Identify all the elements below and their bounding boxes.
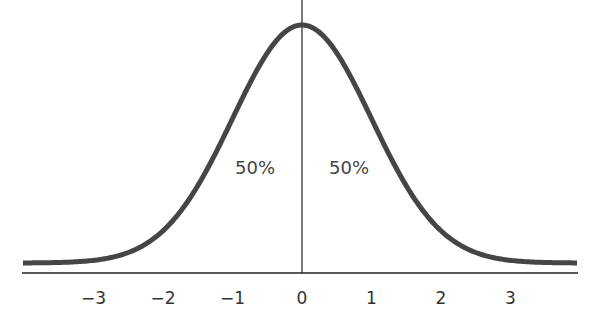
x-tick-label: 2	[436, 288, 447, 308]
normal-curve	[23, 25, 577, 263]
normal-distribution-chart: −3−2−10123 50% 50%	[0, 0, 604, 323]
right-percent-label: 50%	[329, 157, 369, 178]
x-tick-label: 1	[366, 288, 377, 308]
x-tick-label: −3	[81, 288, 106, 308]
x-tick-label: 0	[297, 288, 308, 308]
x-tick-label: −1	[220, 288, 245, 308]
x-tick-label: −2	[150, 288, 175, 308]
plot-area	[0, 0, 604, 323]
left-percent-label: 50%	[235, 157, 275, 178]
x-tick-label: 3	[505, 288, 516, 308]
